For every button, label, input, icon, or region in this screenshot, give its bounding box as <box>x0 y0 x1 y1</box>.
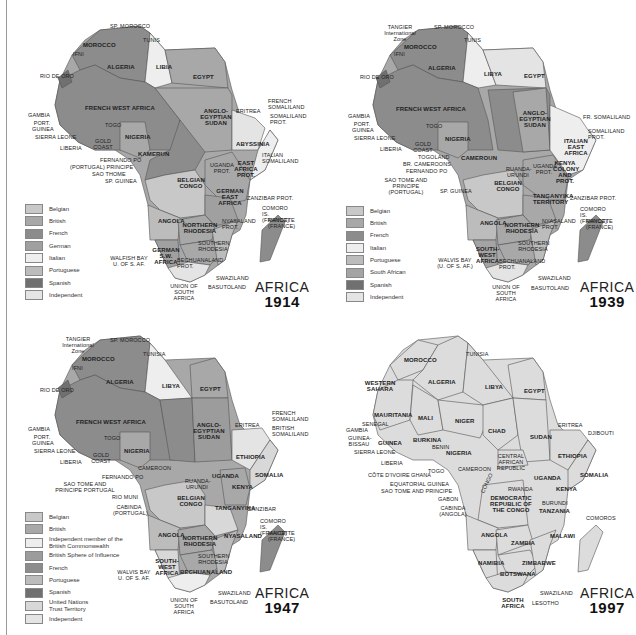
map-label: SP. GUINEA <box>440 188 472 194</box>
map-label: BASUTOLAND <box>208 284 246 290</box>
legend-item: Belgian <box>346 205 406 217</box>
legend-swatch <box>346 243 364 253</box>
legend-swatch <box>25 575 43 585</box>
legend-swatch <box>346 255 364 265</box>
legend-swatch <box>25 241 43 251</box>
map-title: AFRICA 1947 <box>255 586 309 615</box>
legend-item: South African <box>346 266 406 278</box>
map-label: CAMEROON <box>138 465 171 471</box>
map-label: SWAZILAND <box>540 590 573 596</box>
map-label: MOROCCO <box>82 356 115 362</box>
map-label: ALGERIA <box>428 379 456 385</box>
legend-item: Portuguese <box>346 254 406 266</box>
legend-swatch <box>25 216 43 226</box>
legend-swatch <box>25 614 43 624</box>
map-label: WESTERN SAHARA <box>364 380 396 392</box>
legend: Belgian British French Italian Portugues… <box>346 205 406 303</box>
map-label: DEMOCRATIC REPUBLIC OF THE CONGO <box>488 495 534 513</box>
map-label: LIBERIA <box>60 145 82 151</box>
map-label: GOLD COAST <box>92 138 114 150</box>
legend: Belgian British Independent member of th… <box>25 511 127 625</box>
map-label: ZANZIBAR PROT. <box>247 195 293 201</box>
map-label: RUANDA-URUNDI <box>185 478 209 490</box>
map-label: UGANDA <box>212 473 239 479</box>
map-label: RIO MUNI <box>112 494 138 500</box>
map-label: CAMEROUN <box>461 155 497 161</box>
map-label: KENYA <box>232 484 253 490</box>
map-label: SOUTHERN RHODESIA <box>198 240 228 252</box>
map-label: CAMEROON <box>458 466 491 472</box>
legend-swatch <box>25 601 43 611</box>
map-label: SAO TOME AND PRINCIPE PORTUGAL <box>55 481 115 493</box>
legend-swatch <box>25 588 43 598</box>
legend-swatch <box>346 280 364 290</box>
map-label: NYASALAND PROT. <box>542 218 572 230</box>
map-label: TUNIS <box>143 37 160 43</box>
map-label: ANGOLA <box>480 220 507 226</box>
map-label: BECHUANALAND PROT. <box>177 257 213 269</box>
map-label: ALGERIA <box>428 65 456 71</box>
legend-item: British <box>346 217 406 229</box>
map-label: RIO DE ORO <box>40 387 74 393</box>
map-label: ANGOLA <box>158 532 185 538</box>
map-label: FR. SOMALILAND <box>583 114 630 120</box>
map-label: MALI <box>418 415 433 421</box>
map-panel-1939: Belgian British French Italian Portugues… <box>318 0 636 305</box>
map-title: AFRICA 1914 <box>255 280 309 309</box>
map-label: MAYOTTE (FRANCE) <box>268 530 300 542</box>
legend-item: Spanish <box>25 586 127 598</box>
legend-item: French <box>25 562 127 574</box>
map-label: WALFISH BAY U. of S. Af. <box>110 255 148 267</box>
legend-swatch <box>346 268 364 278</box>
map-title: AFRICA 1939 <box>580 280 634 309</box>
map-label: RIO DE ORO <box>40 73 74 79</box>
map-label: GAMBIA <box>348 113 370 119</box>
map-label: EAST AFRICA PROT. <box>234 160 258 178</box>
map-label: LESOTHO <box>532 600 559 606</box>
map-label: CÔTE D'IVOIRE <box>368 472 410 478</box>
map-label: UGANDA PROT. <box>533 163 555 175</box>
map-label: NORTHERN RHODESIA <box>182 535 218 547</box>
legend-swatch <box>346 231 364 241</box>
map-label: BELGIAN CONGO <box>493 180 523 192</box>
map-label: BELGIAN CONGO <box>176 495 206 507</box>
legend-item: French <box>346 230 406 242</box>
map-label: KAMERUN <box>138 151 169 157</box>
legend-item: Spanish <box>346 279 406 291</box>
map-title: AFRICA 1997 <box>580 586 634 615</box>
map-label: SAO TOME AND PRINCIPE (PORTUGAL) <box>376 177 436 195</box>
map-label: SUDAN <box>530 434 552 440</box>
map-label: NIGERIA <box>446 450 472 456</box>
map-label: SWAZILAND <box>216 275 249 281</box>
map-label: ANGOLA <box>481 532 508 538</box>
map-label: RIO DE ORO <box>360 74 394 80</box>
map-label: PORT. GUINEA <box>32 120 52 132</box>
map-label: NIGERIA <box>124 448 150 454</box>
map-label: FRENCH WEST AFRICA <box>85 105 155 111</box>
legend-item: Independent member of the British Common… <box>25 536 127 550</box>
map-label: TUNIS <box>464 37 481 43</box>
map-label: BRITISH SOMALILAND <box>272 425 302 437</box>
legend-swatch <box>25 538 43 548</box>
map-label: IFNI <box>394 51 405 57</box>
legend-item: Independent <box>25 613 127 625</box>
map-label: TOGO <box>105 122 122 128</box>
map-label: MOROCCO <box>404 357 437 363</box>
map-label: BOTSWANA <box>500 571 536 577</box>
cut-off-caption-text <box>22 629 622 635</box>
map-label: FRENCH WEST AFRICA <box>396 106 466 112</box>
map-label: KENYA COLONY AND PROT. <box>553 160 577 184</box>
map-label: SOMALIA <box>255 472 283 478</box>
map-label: TANGIER International Zone <box>380 24 420 42</box>
map-label: ALGERIA <box>107 64 135 70</box>
map-label: GAMBIA <box>28 112 50 118</box>
map-label: SP. GUINEA <box>105 178 137 184</box>
legend-item: Italian <box>346 242 406 254</box>
map-label: RWANDA <box>508 486 533 492</box>
legend-item: British Sphere of Influence <box>25 550 127 562</box>
map-label: FERNANDO PO <box>102 474 143 480</box>
legend-item: Portuguese <box>25 264 82 276</box>
map-panel-1947: Belgian British Independent member of th… <box>0 310 318 615</box>
map-label: MOROCCO <box>404 44 437 50</box>
map-label: MALAWI <box>550 533 575 539</box>
